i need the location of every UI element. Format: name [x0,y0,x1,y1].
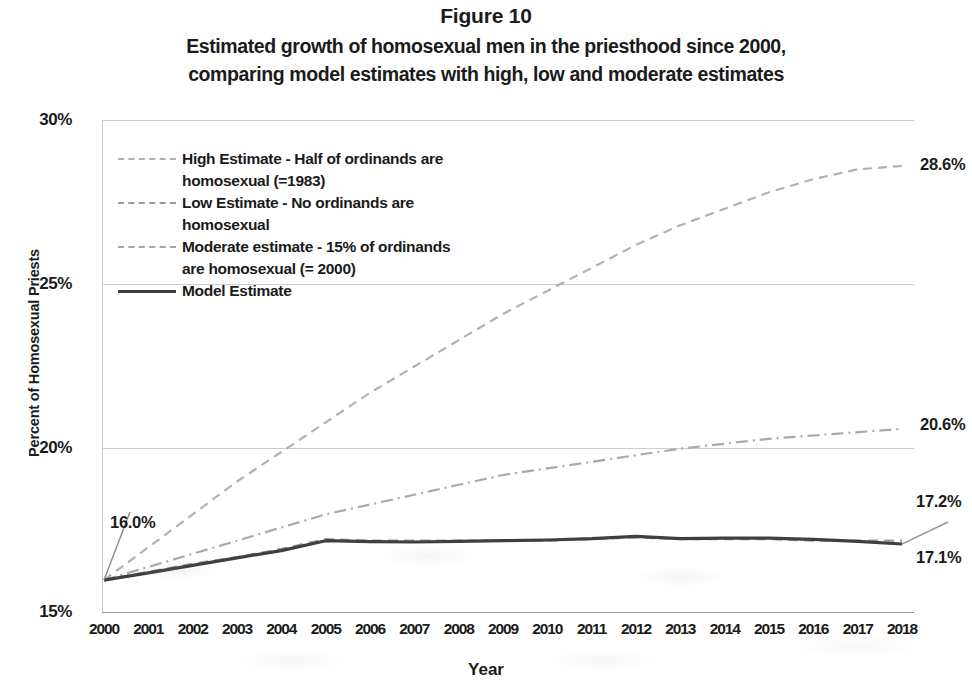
legend-line-moderate-icon [118,246,176,248]
x-tick-2003: 2003 [214,620,260,638]
chart-legend: High Estimate - Half of ordinands are ho… [118,148,538,302]
legend-label-moderate-estimate: Moderate estimate - 15% of ordinands are… [182,236,538,280]
legend-label-low-estimate: Low Estimate - No ordinands are homosexu… [182,192,538,236]
legend-line-high-icon [118,158,176,160]
y-axis-title: Percent of Homosexual Priests [26,173,42,533]
x-tick-2007: 2007 [391,620,437,638]
x-tick-2004: 2004 [258,620,304,638]
data-label-low-end: 17.2% [916,492,961,511]
x-tick-2005: 2005 [303,620,349,638]
legend-label-model-estimate: Model Estimate [182,280,538,302]
x-tick-2010: 2010 [524,620,570,638]
x-tick-2013: 2013 [657,620,703,638]
y-axis-tick-labels: 30% 25% 20% 15% [0,0,100,695]
x-tick-2000: 2000 [81,620,127,638]
legend-line-low-icon [118,202,176,204]
legend-label-high-estimate: High Estimate - Half of ordinands are ho… [182,148,538,192]
legend-line-model-icon [118,290,176,293]
data-label-model-end: 17.1% [916,548,961,567]
x-tick-2017: 2017 [835,620,881,638]
data-label-moderate-end: 20.6% [920,415,965,434]
x-tick-2006: 2006 [347,620,393,638]
x-tick-2008: 2008 [436,620,482,638]
figure-title: Estimated growth of homosexual men in th… [86,32,886,88]
x-tick-2009: 2009 [480,620,526,638]
figure-title-line-1: Estimated growth of homosexual men in th… [86,32,886,60]
x-tick-2014: 2014 [702,620,748,638]
figure-title-line-2: comparing model estimates with high, low… [86,60,886,88]
figure-number: Figure 10 [0,4,972,28]
low-end-label-leader-line [902,522,948,544]
x-tick-2012: 2012 [613,620,659,638]
y-axis-title-wrapper: Percent of Homosexual Priests [22,0,46,695]
x-tick-2002: 2002 [170,620,216,638]
x-tick-2015: 2015 [746,620,792,638]
data-label-high-end: 28.6% [920,155,965,174]
x-axis-tick-labels: 2000200120022003200420052006200720082009… [102,620,914,644]
data-label-start: 16.0% [110,513,155,532]
x-tick-2018: 2018 [879,620,925,638]
legend-item-model-estimate[interactable]: Model Estimate [118,280,538,302]
legend-item-moderate-estimate[interactable]: Moderate estimate - 15% of ordinands are… [118,236,538,280]
x-axis-title: Year [0,660,972,680]
x-tick-2001: 2001 [125,620,171,638]
legend-item-high-estimate[interactable]: High Estimate - Half of ordinands are ho… [118,148,538,192]
x-tick-2016: 2016 [790,620,836,638]
series-moderate-estimate [104,429,902,580]
legend-item-low-estimate[interactable]: Low Estimate - No ordinands are homosexu… [118,192,538,236]
x-tick-2011: 2011 [569,620,615,638]
